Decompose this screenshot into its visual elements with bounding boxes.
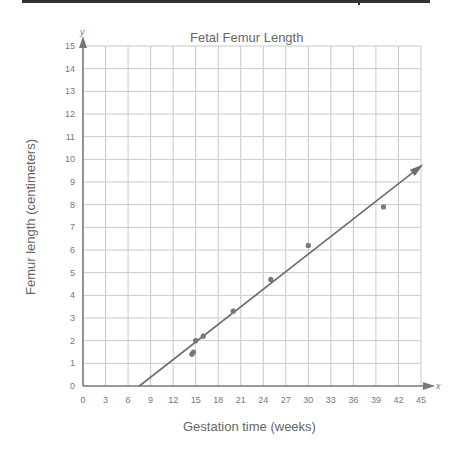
y-tick-label: 2 xyxy=(70,336,75,346)
y-tick-label: 13 xyxy=(65,86,75,96)
y-tick-label: 5 xyxy=(70,268,75,278)
x-tick-label: 42 xyxy=(393,395,403,405)
data-point xyxy=(201,334,206,339)
y-tick-label: 9 xyxy=(70,177,75,187)
x-tick-label: 3 xyxy=(103,395,108,405)
y-tick-label: 10 xyxy=(65,154,75,164)
chart-plot-area: yx03691215182124273033363942450123456789… xyxy=(0,0,456,450)
data-point xyxy=(231,309,236,314)
y-axis-arrow-icon xyxy=(79,36,87,48)
x-tick-label: 30 xyxy=(303,395,313,405)
y-tick-label: 12 xyxy=(65,109,75,119)
x-tick-label: 21 xyxy=(236,395,246,405)
y-tick-label: 3 xyxy=(70,313,75,323)
trend-line xyxy=(139,166,421,386)
y-tick-label: 6 xyxy=(70,245,75,255)
data-point xyxy=(306,243,311,248)
x-tick-label: 12 xyxy=(168,395,178,405)
y-tick-label: 14 xyxy=(65,64,75,74)
y-tick-label: 8 xyxy=(70,200,75,210)
y-tick-label: 7 xyxy=(70,222,75,232)
x-tick-label: 39 xyxy=(371,395,381,405)
x-axis-letter: x xyxy=(435,381,441,391)
y-tick-label: 4 xyxy=(70,290,75,300)
x-axis-arrow-icon xyxy=(423,382,435,390)
x-tick-label: 27 xyxy=(281,395,291,405)
data-point xyxy=(381,204,386,209)
data-point xyxy=(193,338,198,343)
y-tick-label: 15 xyxy=(65,41,75,51)
y-axis-letter: y xyxy=(79,27,85,37)
x-tick-label: 36 xyxy=(348,395,358,405)
data-point xyxy=(191,349,196,354)
x-tick-label: 9 xyxy=(148,395,153,405)
x-tick-label: 45 xyxy=(416,395,426,405)
data-point xyxy=(268,277,273,282)
y-tick-label: 11 xyxy=(66,132,75,142)
y-tick-label: 0 xyxy=(70,381,75,391)
x-tick-label: 15 xyxy=(191,395,201,405)
x-tick-label: 0 xyxy=(80,395,85,405)
x-tick-label: 24 xyxy=(258,395,268,405)
y-tick-label: 1 xyxy=(70,358,75,368)
x-tick-label: 18 xyxy=(213,395,223,405)
x-tick-label: 33 xyxy=(326,395,336,405)
x-tick-label: 6 xyxy=(126,395,131,405)
